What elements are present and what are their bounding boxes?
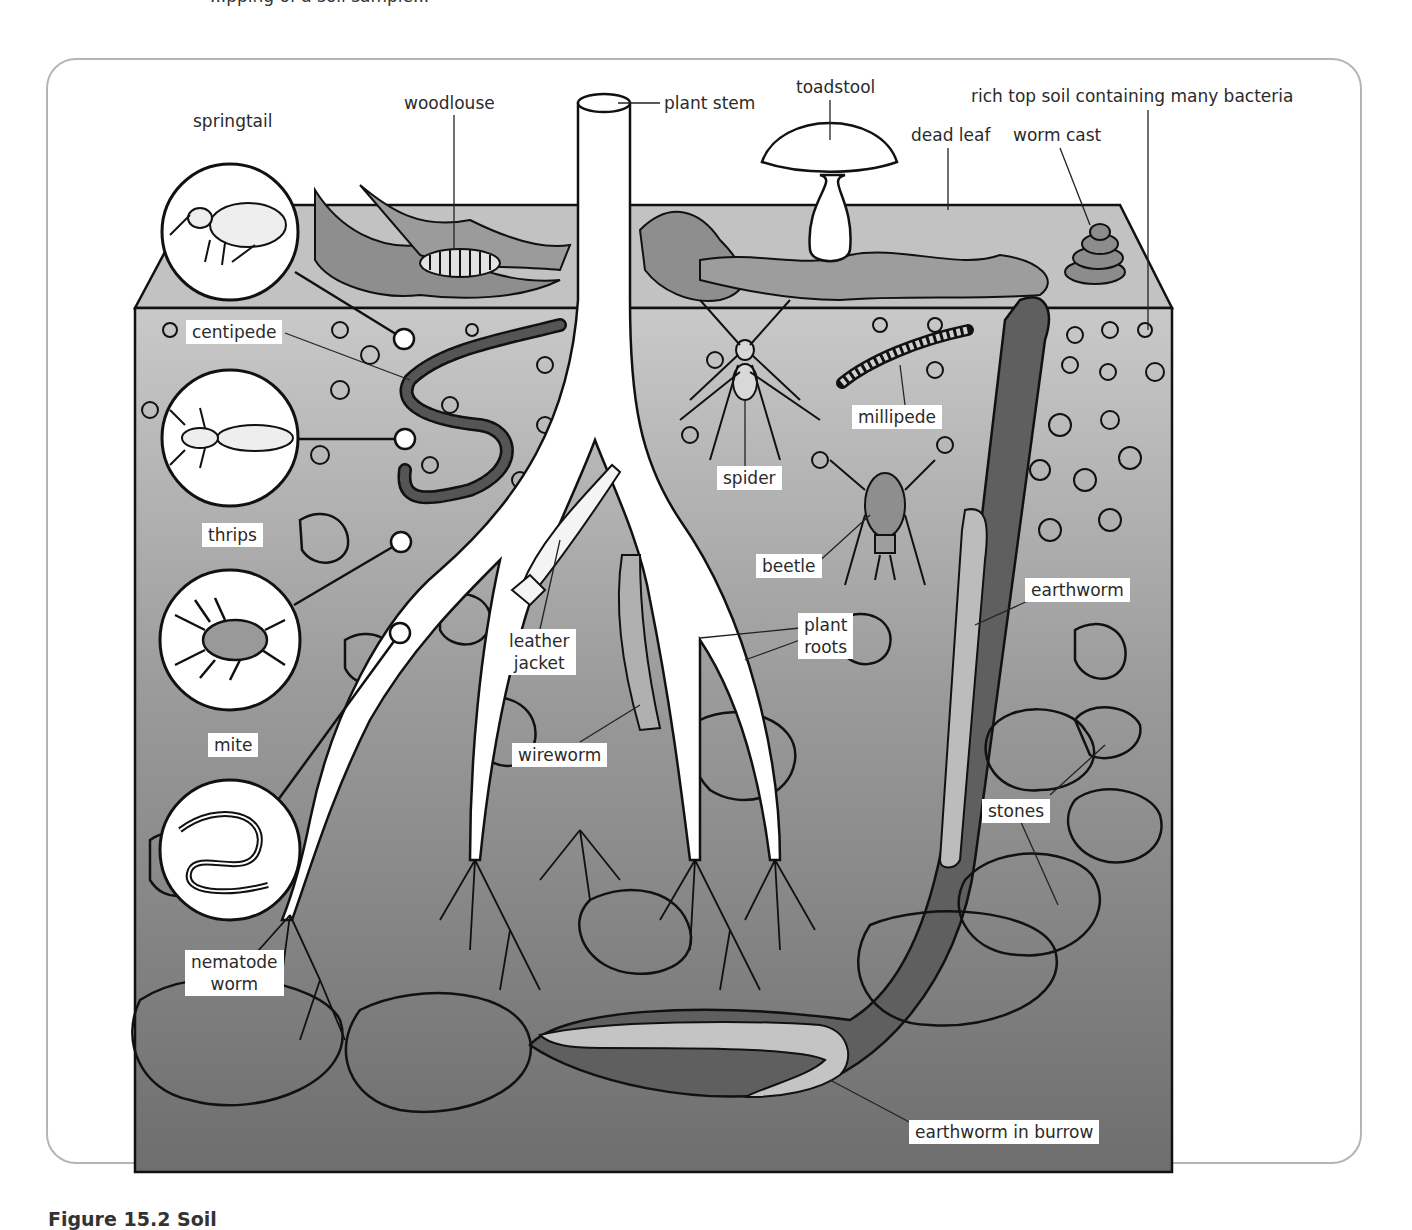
label-plant-stem: plant stem: [664, 92, 755, 114]
label-nematode-worm: nematode worm: [185, 950, 284, 996]
label-plant-roots: plant roots: [798, 613, 853, 659]
label-thrips: thrips: [202, 523, 263, 547]
label-stones: stones: [982, 799, 1050, 823]
woodlouse: [420, 249, 500, 277]
label-dead-leaf: dead leaf: [911, 124, 990, 146]
label-worm-cast: worm cast: [1013, 124, 1101, 146]
label-beetle: beetle: [756, 554, 822, 578]
label-spider: spider: [717, 466, 782, 490]
label-centipede: centipede: [186, 320, 282, 344]
label-woodlouse: woodlouse: [404, 92, 495, 114]
figure-caption: Figure 15.2 Soil: [48, 1208, 217, 1230]
label-earthworm: earthworm: [1025, 578, 1130, 602]
nematode-magnifier: [160, 780, 300, 920]
label-springtail: springtail: [193, 110, 272, 132]
label-leather-jacket: leather jacket: [503, 629, 576, 675]
label-mite: mite: [208, 733, 258, 757]
label-toadstool: toadstool: [796, 76, 875, 98]
label-earthworm-in-burrow: earthworm in burrow: [909, 1120, 1099, 1144]
label-rich-top-soil: rich top soil containing many bacteria: [971, 85, 1293, 107]
label-millipede: millipede: [852, 405, 942, 429]
label-wireworm: wireworm: [512, 743, 607, 767]
